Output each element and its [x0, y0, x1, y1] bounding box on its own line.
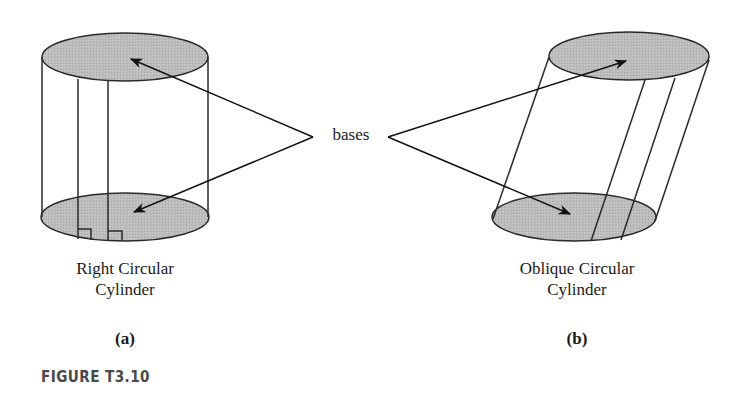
bases-label: bases [318, 125, 384, 145]
top-base [549, 32, 709, 80]
panel-b-title: Oblique Circular Cylinder [487, 258, 667, 300]
bottom-base [492, 193, 656, 241]
panel-a-title-line2: Cylinder [40, 279, 210, 300]
panel-b-title-line1: Oblique Circular [487, 258, 667, 279]
panel-a-title: Right Circular Cylinder [40, 258, 210, 300]
bottom-base [41, 193, 209, 241]
panel-a-title-line1: Right Circular [40, 258, 210, 279]
figure-number: FIGURE T3.10 [41, 367, 150, 386]
panel-a-label: (a) [95, 329, 155, 349]
top-base [42, 33, 208, 81]
right-circular-cylinder [41, 33, 209, 241]
oblique-circular-cylinder [492, 32, 709, 241]
panel-b-label: (b) [547, 329, 607, 349]
panel-b-title-line2: Cylinder [487, 279, 667, 300]
